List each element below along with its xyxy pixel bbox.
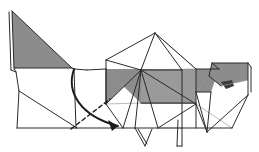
origami-diagram-figure [0, 0, 259, 152]
origami-diagram-canvas [0, 0, 259, 152]
